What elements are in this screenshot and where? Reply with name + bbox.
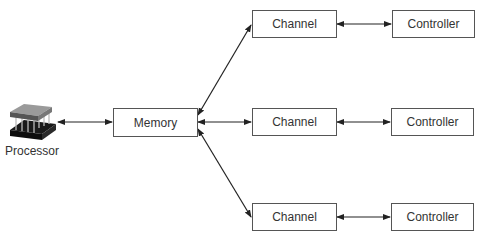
channel-label: Channel xyxy=(272,210,317,224)
memory-label: Memory xyxy=(134,116,177,130)
controller-label: Controller xyxy=(406,115,458,129)
memory-box: Memory xyxy=(113,108,198,137)
channel-label: Channel xyxy=(272,115,317,129)
controller-label: Controller xyxy=(407,17,459,31)
channel-label: Channel xyxy=(272,17,317,31)
channel-box-bottom: Channel xyxy=(252,203,337,231)
controller-box-bottom: Controller xyxy=(391,203,474,231)
memory-channel-top-arrow xyxy=(198,25,251,115)
controller-box-top: Controller xyxy=(392,10,475,38)
processor-chip-icon xyxy=(6,104,58,142)
memory-channel-bottom-arrow xyxy=(198,129,251,217)
controller-label: Controller xyxy=(406,210,458,224)
processor-label: Processor xyxy=(5,144,59,158)
channel-box-top: Channel xyxy=(252,10,337,38)
channel-box-middle: Channel xyxy=(252,108,337,136)
controller-box-middle: Controller xyxy=(391,108,474,136)
